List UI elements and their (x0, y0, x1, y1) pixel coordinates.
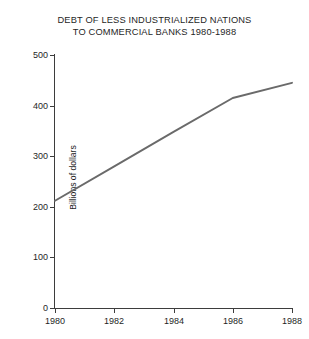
series-layer (0, 0, 309, 339)
series-line-debt (55, 83, 292, 201)
